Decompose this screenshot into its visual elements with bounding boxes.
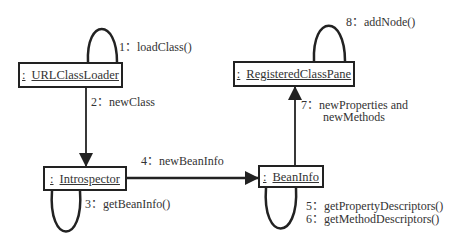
object-url-class-loader: :URLClassLoader [18,62,123,88]
message-1-label: 1：loadClass() [119,37,192,55]
message-2-label: 2：newClass [91,92,155,110]
self-loop-descriptors [266,188,296,229]
object-name: :RegisteredClassPane [235,67,353,82]
object-name: :Introspector [45,172,125,187]
self-loop-add-node [314,26,345,61]
self-loop-load-class [88,29,117,62]
message-3-label: 3：getBeanInfo() [85,194,170,212]
message-7-label-continued: newMethods [323,110,385,125]
message-6-label: 6：getMethodDescriptors() [306,209,439,227]
object-bean-info: :BeanInfo [258,165,324,188]
object-registered-class-pane: :RegisteredClassPane [233,61,355,87]
object-name: :BeanInfo [260,170,322,185]
message-8-label: 8：addNode() [346,12,415,30]
object-name: :URLClassLoader [20,68,121,83]
object-introspector: :Introspector [43,166,127,191]
self-loop-get-bean-info [52,191,81,232]
message-4-label: 4：newBeanInfo [141,151,224,169]
